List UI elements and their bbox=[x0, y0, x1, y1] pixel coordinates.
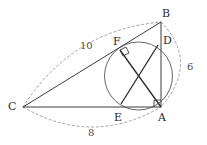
geometry-diagram-canvas: B D F A E C 10 8 6 bbox=[0, 0, 207, 145]
vertex-label-e: E bbox=[114, 112, 122, 123]
side-length-label-ab: 6 bbox=[187, 62, 193, 72]
side-length-label-ca: 8 bbox=[88, 128, 94, 138]
vertex-label-c: C bbox=[8, 101, 16, 112]
vertex-label-f: F bbox=[113, 36, 121, 47]
segment-cb bbox=[23, 22, 161, 107]
chord-fa bbox=[120, 50, 161, 107]
dashed-arc-group bbox=[23, 22, 181, 127]
diagram-svg bbox=[0, 0, 207, 145]
vertex-label-d: D bbox=[163, 35, 172, 46]
side-length-label-cb: 10 bbox=[80, 41, 93, 51]
vertex-label-a: A bbox=[158, 112, 166, 123]
triangle-sides bbox=[23, 22, 161, 107]
vertex-label-b: B bbox=[162, 8, 170, 19]
